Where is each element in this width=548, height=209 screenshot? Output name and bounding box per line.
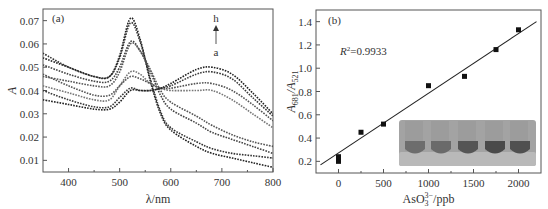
y-tick-label: 0.05 [20,61,40,73]
spectrum-curve-a [43,18,273,167]
spectrum-curve-g [43,72,273,117]
data-point [336,154,341,159]
x-tick-label: 500 [375,177,392,189]
data-point [336,159,341,164]
x-tick-label: 600 [163,176,180,188]
y-tick-label: 0.07 [20,15,40,27]
y-tick-label: 0.8 [298,86,312,98]
x-tick-label: 400 [60,176,77,188]
r-squared-annotation: R2=0.9933 [339,45,387,57]
data-point [516,27,521,32]
y-tick-label: 0.6 [298,109,312,121]
panel-label-b: (b) [328,14,341,27]
series-label-a: a [214,46,219,58]
data-point [462,74,467,79]
spectrum-curve-b [43,23,273,158]
figure: 4005006007008000.010.020.030.040.050.060… [0,0,548,209]
y-tick-label: 0.02 [20,131,39,143]
data-point [359,130,364,135]
y-tick-label: 0.03 [20,108,40,120]
chart-a: 4005006007008000.010.020.030.040.050.060… [5,9,282,206]
panel-label-a: (a) [52,12,65,25]
y-tick-label: 0.4 [298,132,312,144]
y-tick-label: 0.06 [20,38,40,50]
x-tick-label: 2000 [508,177,531,189]
data-point [494,47,499,52]
y-axis-title: A [5,86,19,95]
x-tick-label: 0 [336,177,342,189]
y-axis-title: A681/A521 [284,70,300,113]
y-tick-label: 1.0 [298,62,312,74]
series-label-h: h [213,12,219,24]
x-tick-label: 700 [214,176,231,188]
y-tick-label: 1.2 [298,39,312,51]
y-tick-label: 0.01 [20,154,39,166]
arrow-head-icon [213,25,219,31]
x-tick-label: 800 [265,176,282,188]
data-point [426,83,431,88]
data-point [381,122,386,127]
plot-frame-a [43,9,273,172]
chart-b: 05001000150020000.20.40.60.81.01.21.4AsO… [284,10,541,208]
spectrum-curve-c [43,41,273,153]
x-tick-label: 1000 [418,177,441,189]
y-tick-label: 0.2 [298,155,312,167]
y-tick-label: 1.4 [298,16,312,28]
x-axis-title: λ/nm [146,192,171,206]
inset-vial-photo [399,120,536,166]
x-axis-title: AsO33−/ppb [403,191,455,208]
spectrum-curve-e [43,71,273,128]
x-tick-label: 500 [111,176,128,188]
x-tick-label: 1500 [463,177,486,189]
y-tick-label: 0.04 [20,85,40,97]
spectrum-curve-f [43,74,273,121]
